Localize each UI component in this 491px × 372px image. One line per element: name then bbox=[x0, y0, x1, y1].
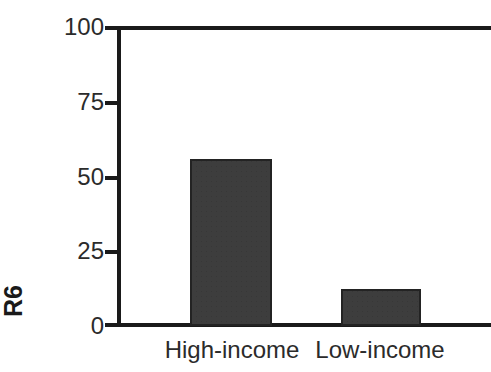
y-tick-label-0: 0 bbox=[28, 312, 104, 340]
y-tick-label-100: 100 bbox=[28, 13, 104, 41]
y-axis-title: R6 bbox=[0, 275, 26, 327]
y-tick-text: 50 bbox=[28, 163, 104, 191]
bar-chart-figure: R6 100 75 50 25 0 High-income Low-income bbox=[0, 0, 491, 372]
y-tick-label-25: 25 bbox=[28, 237, 104, 265]
axis-spine-left bbox=[117, 26, 121, 327]
y-tick-text: 100 bbox=[28, 13, 104, 41]
bar-low-income bbox=[341, 289, 421, 326]
y-tick-label-75: 75 bbox=[28, 88, 104, 116]
axis-spine-bottom bbox=[117, 323, 491, 327]
y-tick-text: 25 bbox=[28, 237, 104, 265]
x-tick-label-low-income: Low-income bbox=[295, 334, 465, 366]
axis-spine-top bbox=[117, 26, 491, 30]
y-tick-label-50: 50 bbox=[28, 163, 104, 191]
y-tick-text: 0 bbox=[28, 312, 104, 340]
bar-high-income bbox=[190, 159, 272, 326]
y-tick-text: 75 bbox=[28, 88, 104, 116]
